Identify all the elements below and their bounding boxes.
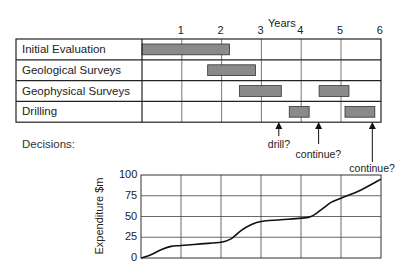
- gantt-bar: [345, 106, 375, 117]
- gantt-row-label: Initial Evaluation: [22, 43, 106, 55]
- decision-label: continue?: [296, 148, 342, 160]
- gantt-row-label: Geological Surveys: [22, 64, 121, 76]
- expenditure-plot: [0, 160, 408, 275]
- gantt-row-label: Geophysical Surveys: [22, 85, 130, 97]
- gantt-bar: [319, 86, 349, 97]
- gantt-bar: [142, 44, 230, 55]
- gantt-row-label: Drilling: [22, 105, 57, 117]
- decision-label: drill?: [268, 138, 290, 150]
- gantt-bar: [289, 106, 309, 117]
- gantt-bar: [208, 65, 256, 76]
- gantt-bar: [240, 86, 282, 97]
